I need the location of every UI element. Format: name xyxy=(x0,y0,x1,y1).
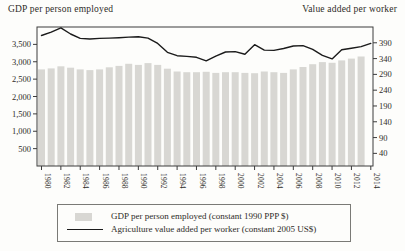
year-label-1994: 1994 xyxy=(178,173,187,189)
year-label-2006: 2006 xyxy=(294,173,303,189)
year-label-1992: 1992 xyxy=(159,173,168,189)
right-tick-label: 90 xyxy=(379,133,388,143)
year-label-2004: 2004 xyxy=(275,173,284,189)
bar-1997 xyxy=(203,72,210,166)
bar-1986 xyxy=(96,69,103,166)
bar-series-swatch xyxy=(75,213,92,221)
right-tick-label: 390 xyxy=(379,38,392,48)
bar-2003 xyxy=(261,72,268,167)
legend-item-gdp: GDP per person employed (constant 1990 P… xyxy=(66,211,350,222)
agriculture-line xyxy=(42,28,371,61)
bar-1982 xyxy=(57,66,64,166)
legend-item-agriculture: Agriculture value added per worker (cons… xyxy=(66,224,350,235)
left-tick-label: 3,500 xyxy=(12,39,31,49)
bar-2009 xyxy=(319,62,326,166)
right-tick-label: 340 xyxy=(379,54,392,64)
bar-1990 xyxy=(135,65,142,166)
bar-1996 xyxy=(193,72,200,166)
bar-2001 xyxy=(241,73,248,166)
bar-2010 xyxy=(329,63,336,166)
bar-2000 xyxy=(232,72,239,166)
left-tick-label: 1,000 xyxy=(12,126,31,136)
bar-1987 xyxy=(106,67,113,166)
chart-plot-area: 3,5003,0002,5002,0001,5001,0005003903402… xyxy=(0,0,405,202)
bar-2004 xyxy=(270,72,277,166)
year-label-1982: 1982 xyxy=(62,173,71,189)
left-tick-label: 1,500 xyxy=(12,109,31,119)
year-label-2012: 2012 xyxy=(352,173,361,189)
bar-1983 xyxy=(67,68,74,166)
bar-2007 xyxy=(300,67,307,166)
bar-1998 xyxy=(212,73,219,166)
year-label-2008: 2008 xyxy=(314,173,323,189)
bar-2011 xyxy=(338,60,345,166)
legend-box: GDP per person employed (constant 1990 P… xyxy=(57,204,351,242)
bar-2005 xyxy=(280,73,287,166)
line-series-swatch xyxy=(67,229,103,230)
bar-2008 xyxy=(309,64,316,166)
right-tick-label: 240 xyxy=(379,85,392,95)
bar-1989 xyxy=(125,64,132,166)
bar-1993 xyxy=(164,69,171,166)
right-tick-label: 40 xyxy=(379,148,388,158)
legend-label-gdp: GDP per person employed (constant 1990 P… xyxy=(111,211,289,222)
right-tick-label: 190 xyxy=(379,101,392,111)
year-label-1990: 1990 xyxy=(139,173,148,189)
year-label-2014: 2014 xyxy=(372,173,381,189)
bar-2013 xyxy=(358,57,365,167)
left-tick-label: 3,000 xyxy=(12,57,31,67)
right-tick-label: 290 xyxy=(379,69,392,79)
year-label-1996: 1996 xyxy=(198,173,207,189)
bar-1984 xyxy=(77,69,84,166)
year-label-1988: 1988 xyxy=(120,173,129,189)
bar-1992 xyxy=(154,65,161,166)
bar-1995 xyxy=(183,72,190,166)
bar-2002 xyxy=(251,73,258,166)
bar-2012 xyxy=(348,59,355,166)
year-label-2002: 2002 xyxy=(256,173,265,189)
bar-1980 xyxy=(38,69,45,166)
year-label-1980: 1980 xyxy=(43,173,52,189)
legend-label-agriculture: Agriculture value added per worker (cons… xyxy=(111,224,316,235)
right-tick-label: 140 xyxy=(379,117,392,127)
bar-1981 xyxy=(48,68,55,166)
legend-swatch-col xyxy=(66,229,106,230)
left-tick-label: 2,500 xyxy=(12,74,31,84)
year-label-2000: 2000 xyxy=(236,173,245,189)
bar-1999 xyxy=(222,72,229,166)
bar-1985 xyxy=(86,70,93,166)
year-label-1998: 1998 xyxy=(217,173,226,189)
year-label-1986: 1986 xyxy=(101,173,110,189)
bar-1991 xyxy=(145,63,152,166)
legend-swatch-col xyxy=(66,213,106,221)
year-label-1984: 1984 xyxy=(81,173,90,189)
bar-1988 xyxy=(116,66,123,166)
bar-1994 xyxy=(174,72,181,167)
left-tick-label: 2,000 xyxy=(12,92,31,102)
year-label-2010: 2010 xyxy=(333,173,342,189)
bar-2006 xyxy=(290,69,297,166)
left-tick-label: 500 xyxy=(18,144,31,154)
